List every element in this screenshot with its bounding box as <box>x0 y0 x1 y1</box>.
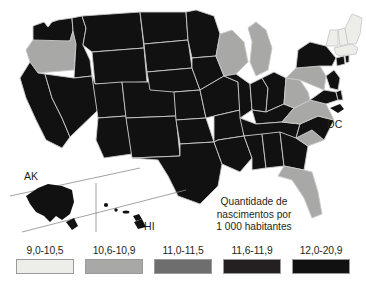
state-ND <box>140 12 188 44</box>
state-DC <box>330 104 344 113</box>
state-NJ <box>326 70 340 90</box>
choropleth-map-figure: AK HI DC Quantidade de nascimentos por 1… <box>0 0 366 298</box>
legend-item: 11,0-11,5 <box>153 245 213 274</box>
state-NE <box>147 68 200 92</box>
inset-label-alaska: AK <box>24 170 38 182</box>
legend-label: 9,0-10,5 <box>27 245 64 256</box>
inset-label-dc: DC <box>327 118 342 130</box>
legend-label: 10,6-10,9 <box>93 245 136 256</box>
state-WI <box>216 30 248 76</box>
state-CT <box>336 56 345 66</box>
state-HI-inset <box>104 203 146 229</box>
state-WY <box>92 48 147 84</box>
legend-item: 10,6-10,9 <box>84 245 144 274</box>
legend-label: 12,0-20,9 <box>300 245 343 256</box>
legend-item: 12,0-20,9 <box>291 245 351 274</box>
map-caption: Quantidade de nascimentos por 1 000 habi… <box>191 196 317 234</box>
legend-label: 11,6-11,9 <box>231 245 272 256</box>
map-legend: 9,0-10,5 10,6-10,9 11,0-11,5 11,6-11,9 1… <box>0 245 366 291</box>
legend-swatch <box>223 259 281 274</box>
legend-swatch <box>292 259 350 274</box>
legend-label: 11,0-11,5 <box>162 245 203 256</box>
legend-swatch <box>85 259 143 274</box>
legend-item: 9,0-10,5 <box>15 245 75 274</box>
state-SD <box>144 40 192 72</box>
legend-item: 11,6-11,9 <box>222 245 282 274</box>
state-RI <box>345 55 349 63</box>
state-MI <box>248 22 272 76</box>
state-NM <box>126 116 180 158</box>
state-OK <box>176 118 214 144</box>
state-VT <box>326 30 338 46</box>
map-caption-line-1: Quantidade de <box>191 196 317 209</box>
state-ME <box>345 14 362 44</box>
state-MN <box>186 10 220 58</box>
legend-swatch <box>16 259 74 274</box>
inset-label-hawaii: HI <box>144 220 155 232</box>
state-AK-inset <box>26 184 78 230</box>
map-caption-line-2: nascimentos por <box>191 209 317 222</box>
legend-swatch <box>154 259 212 274</box>
state-MT <box>82 12 144 52</box>
map-caption-line-3: 1 000 habitantes <box>191 221 317 234</box>
